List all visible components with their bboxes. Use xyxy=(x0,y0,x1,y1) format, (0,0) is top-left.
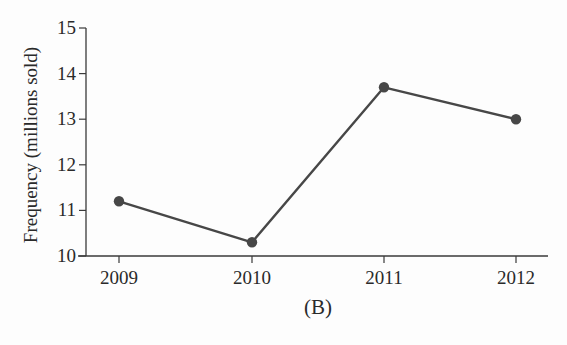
x-tick-label: 2009 xyxy=(100,267,138,288)
x-tick-label: 2010 xyxy=(233,267,271,288)
figure-caption: (B) xyxy=(304,295,332,319)
y-tick-label: 10 xyxy=(57,245,76,266)
y-tick-label: 13 xyxy=(57,108,76,129)
y-axis-title: Frequency (millions sold) xyxy=(20,47,42,243)
data-point-marker xyxy=(379,82,389,92)
line-chart: 101112131415 2009201020112012 Frequency … xyxy=(0,0,567,345)
y-axis: 101112131415 xyxy=(57,17,86,266)
data-point-marker xyxy=(247,237,257,247)
data-point-marker xyxy=(511,114,521,124)
data-point-marker xyxy=(114,196,124,206)
x-tick-label: 2011 xyxy=(365,267,402,288)
data-series xyxy=(114,82,521,247)
y-tick-label: 11 xyxy=(58,199,76,220)
x-tick-label: 2012 xyxy=(497,267,535,288)
y-tick-label: 15 xyxy=(57,17,76,38)
series-line xyxy=(119,87,516,242)
x-axis: 2009201020112012 xyxy=(78,256,548,288)
y-tick-label: 14 xyxy=(57,63,77,84)
y-tick-label: 12 xyxy=(57,154,76,175)
